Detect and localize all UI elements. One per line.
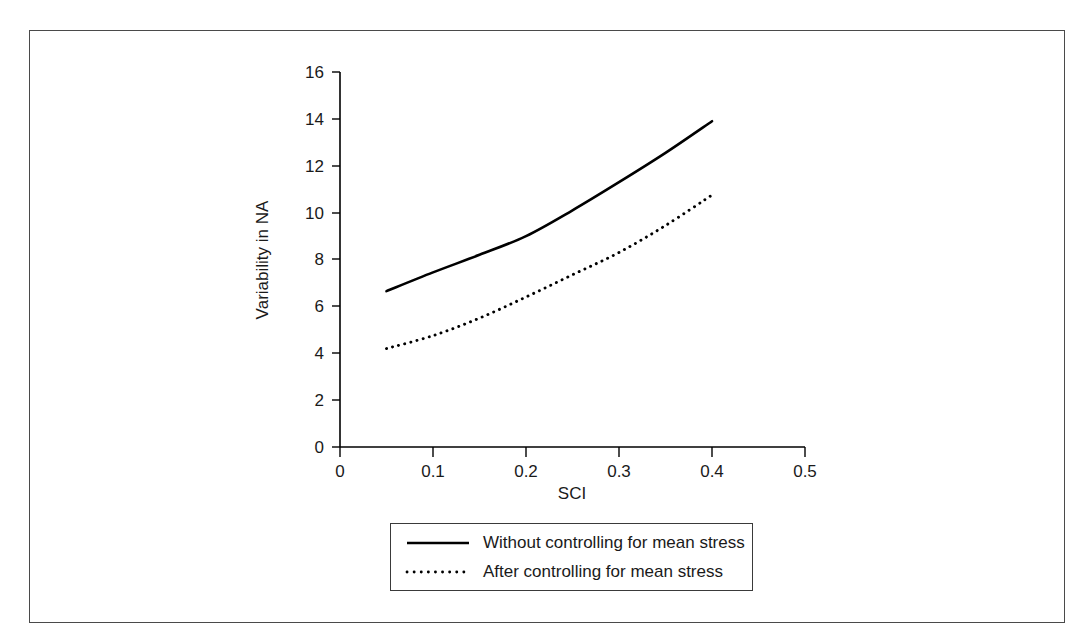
- y-tick-label: 16: [305, 63, 324, 82]
- legend-label-without-controlling: Without controlling for mean stress: [483, 534, 745, 551]
- x-tick-label: 0.5: [793, 462, 817, 481]
- y-axis-title: Variability in NA: [253, 200, 272, 319]
- x-axis-title: SCI: [558, 484, 586, 503]
- x-tick-label: 0.4: [700, 462, 724, 481]
- y-tick-label: 0: [315, 438, 324, 457]
- legend-item-after-controlling: After controlling for mean stress: [405, 559, 742, 584]
- x-tick-label: 0.3: [607, 462, 631, 481]
- y-tick-label: 4: [315, 344, 324, 363]
- series-line-without-controlling: [387, 121, 713, 291]
- legend-item-without-controlling: Without controlling for mean stress: [405, 530, 742, 555]
- y-tick-label: 6: [315, 297, 324, 316]
- x-tick-label: 0: [335, 462, 344, 481]
- x-axis-ticks: [340, 447, 805, 457]
- y-tick-label: 2: [315, 391, 324, 410]
- y-tick-label: 10: [305, 204, 324, 223]
- legend-swatch-solid: [405, 536, 471, 550]
- chart-legend: Without controlling for mean stress Afte…: [390, 523, 753, 591]
- x-tick-label: 0.2: [514, 462, 538, 481]
- y-tick-label: 14: [305, 110, 324, 129]
- legend-label-after-controlling: After controlling for mean stress: [483, 563, 723, 580]
- y-tick-label: 8: [315, 250, 324, 269]
- legend-swatch-dotted: [405, 565, 471, 579]
- x-tick-label: 0.1: [421, 462, 445, 481]
- y-tick-label: 12: [305, 157, 324, 176]
- y-axis-ticks: [332, 72, 340, 447]
